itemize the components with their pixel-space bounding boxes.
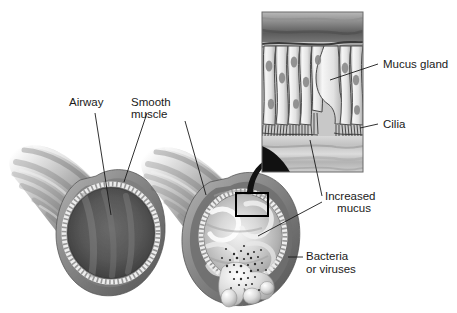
label-increased-mucus-line1: Increased: [325, 190, 376, 203]
label-bacteria-line2: or viruses: [306, 263, 356, 276]
label-cilia: Cilia: [383, 118, 405, 131]
label-bacteria-line1: Bacteria: [306, 250, 348, 263]
label-smooth-muscle-line1: Smooth: [131, 96, 171, 109]
label-airway: Airway: [69, 96, 104, 109]
label-mucus-gland: Mucus gland: [383, 58, 448, 71]
epithelium-inset: [262, 12, 363, 172]
label-increased-mucus-line2: mucus: [325, 202, 383, 215]
figure-root: Airway Smooth muscle Mucus gland Cilia I…: [0, 0, 457, 313]
label-smooth-muscle-line2: muscle: [131, 108, 167, 121]
illustration-canvas: [0, 0, 457, 313]
